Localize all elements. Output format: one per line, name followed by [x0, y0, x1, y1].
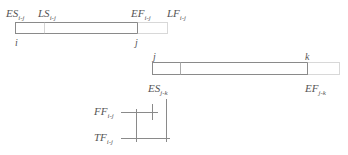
label-tf-sub: i-j: [107, 138, 113, 146]
activity-jk-extension: [308, 63, 340, 75]
activity-ij-bar: [16, 23, 138, 34]
node-k: k: [305, 52, 309, 62]
label-es-jk-main: ES: [148, 82, 160, 94]
label-ef-jk: EFj-k: [305, 83, 326, 94]
label-es-ij: ESi-j: [6, 8, 24, 19]
label-ef-sub: i-j: [144, 14, 150, 22]
label-ff: FFi-j: [94, 106, 114, 117]
label-ls-sub: i-j: [50, 14, 56, 22]
label-es-jk-sub: j-k: [160, 89, 167, 97]
label-es-sub: i-j: [18, 14, 24, 22]
label-es-main: ES: [6, 7, 18, 19]
label-ef-main: EF: [131, 7, 144, 19]
label-ff-sub: i-j: [107, 112, 113, 120]
node-i: i: [15, 38, 18, 48]
label-ls-main: LS: [38, 7, 50, 19]
label-lf-sub: i-j: [180, 14, 186, 22]
label-lf-main: LF: [167, 7, 180, 19]
node-j-start: j: [153, 52, 156, 62]
activity-ij-free-extension: [138, 23, 168, 34]
activity-jk-bar: [153, 63, 308, 75]
label-tf-main: TF: [94, 131, 107, 143]
label-ef-jk-main: EF: [305, 82, 318, 94]
diagram-canvas: [0, 0, 348, 155]
node-j-end: j: [135, 38, 138, 48]
label-ls-ij: LSi-j: [38, 8, 56, 19]
label-es-jk: ESj-k: [148, 83, 168, 94]
label-tf: TFi-j: [94, 132, 113, 143]
label-ff-main: FF: [94, 105, 107, 117]
label-ef-jk-sub: j-k: [318, 89, 325, 97]
label-ef-ij: EFi-j: [131, 8, 151, 19]
label-lf-ij: LFi-j: [167, 8, 186, 19]
